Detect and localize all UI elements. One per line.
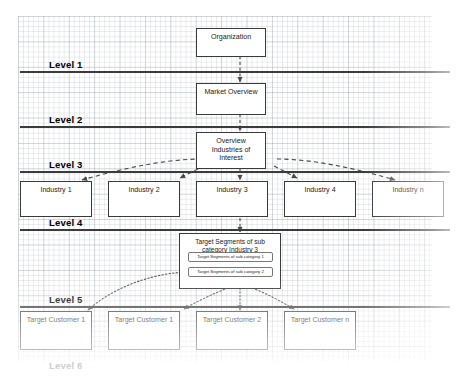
node-target-customer-n-label: Target Customer n xyxy=(285,312,355,325)
node-industry-1-label: Industry 1 xyxy=(21,182,91,195)
level-5-rule xyxy=(20,306,450,308)
level-3-label: Level 3 xyxy=(49,159,83,170)
connector-overview-to-industry-1 xyxy=(82,159,202,180)
node-market-overview-label: Market Overview xyxy=(197,84,265,97)
node-organization-label: Organization xyxy=(197,29,265,42)
node-target-segments-line-1: Target Segments of sub xyxy=(195,238,265,245)
node-industry-4-label: Industry 4 xyxy=(285,182,355,195)
level-4-rule xyxy=(20,229,450,231)
level-5-label: Level 5 xyxy=(49,294,83,305)
level-6-label: Level 6 xyxy=(49,360,83,371)
node-industry-2-label: Industry 2 xyxy=(109,182,179,195)
node-overview-line-2: Industries of xyxy=(212,146,251,154)
node-sub-category-1[interactable]: Target Segments of sub category 1 xyxy=(188,252,273,262)
node-organization[interactable]: Organization xyxy=(196,28,266,57)
node-sub-category-1-label: Target Segments of sub category 1 xyxy=(197,254,264,259)
node-target-customer-n[interactable]: Target Customer n xyxy=(284,311,356,350)
node-industry-n[interactable]: Industry n xyxy=(372,181,444,217)
node-sub-category-2[interactable]: Target Segments of sub category 2 xyxy=(188,267,273,277)
node-target-customer-2-label: Target Customer 1 xyxy=(109,312,179,325)
node-sub-category-2-label: Target Segments of sub category 2 xyxy=(197,269,264,274)
connector-segments-to-customer-1 xyxy=(88,272,192,310)
level-2-rule xyxy=(20,126,450,128)
node-industry-3[interactable]: Industry 3 xyxy=(196,181,268,217)
node-industry-n-label: Industry n xyxy=(373,182,443,195)
level-1-rule xyxy=(20,71,450,73)
node-market-overview[interactable]: Market Overview xyxy=(196,83,266,115)
node-industry-1[interactable]: Industry 1 xyxy=(20,181,92,217)
node-target-customer-1[interactable]: Target Customer 1 xyxy=(20,311,92,350)
node-overview-industries[interactable]: Overview Industries of Interest xyxy=(196,132,266,169)
node-industry-4[interactable]: Industry 4 xyxy=(284,181,356,217)
diagram-canvas: Level 1 Level 2 Level 3 Level 4 Level 5 … xyxy=(0,0,468,381)
node-target-customer-3[interactable]: Target Customer 2 xyxy=(196,311,268,350)
node-industry-3-label: Industry 3 xyxy=(197,182,267,195)
node-target-customer-1-label: Target Customer 1 xyxy=(21,312,91,325)
level-3-rule xyxy=(20,171,450,173)
node-overview-line-3: Interest xyxy=(219,154,243,162)
level-2-label: Level 2 xyxy=(49,114,83,125)
level-4-label: Level 4 xyxy=(49,217,83,228)
node-industry-2[interactable]: Industry 2 xyxy=(108,181,180,217)
node-overview-line-1: Overview xyxy=(216,137,246,145)
node-target-customer-3-label: Target Customer 2 xyxy=(197,312,267,325)
level-1-label: Level 1 xyxy=(49,59,83,70)
node-target-customer-2[interactable]: Target Customer 1 xyxy=(108,311,180,350)
